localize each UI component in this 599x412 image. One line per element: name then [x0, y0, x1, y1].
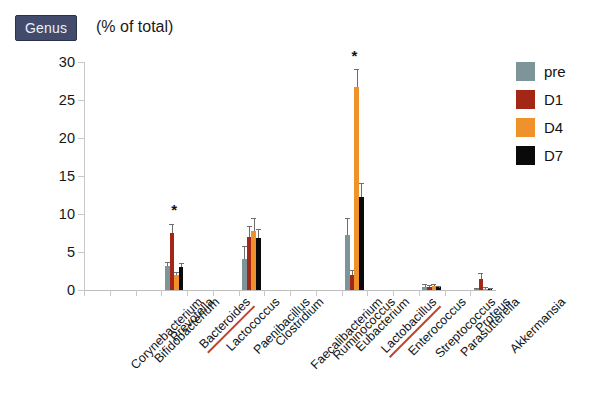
- bar-group: [345, 62, 363, 290]
- bar: [488, 289, 493, 290]
- y-axis-tick-label: 20: [59, 130, 75, 146]
- error-bar-cap: [247, 226, 252, 227]
- bar: [359, 197, 364, 290]
- error-bar-cap: [354, 69, 359, 70]
- genus-badge-label: Genus: [25, 20, 67, 36]
- error-bar: [347, 219, 348, 234]
- chart-figure: Genus (% of total) 051015202530 ** Coryn…: [0, 0, 599, 412]
- error-bar-cap: [478, 273, 483, 274]
- bar-group: [216, 62, 234, 290]
- error-bar-cap: [359, 183, 364, 184]
- bar-group: [474, 62, 492, 290]
- x-axis-labels: CorynebacteriumBifidobacteriumPrevotella…: [84, 292, 496, 410]
- error-bar: [434, 285, 435, 286]
- y-axis-tick-label: 0: [67, 282, 75, 298]
- error-bar-cap: [488, 288, 493, 289]
- bar-group: [397, 62, 415, 290]
- error-bar: [361, 184, 362, 198]
- y-axis-tick: [78, 176, 84, 177]
- bar-group: [191, 62, 209, 290]
- bar-group: [422, 62, 440, 290]
- bar-group: [268, 62, 286, 290]
- bar-group: [139, 62, 157, 290]
- error-bar: [167, 263, 168, 267]
- legend-swatch: [516, 118, 535, 137]
- y-axis-tick-label: 25: [59, 92, 75, 108]
- bar-group: [88, 62, 106, 290]
- y-axis-tick: [78, 62, 84, 63]
- legend-label: D1: [544, 91, 563, 108]
- bar-group: [294, 62, 312, 290]
- legend-swatch: [516, 62, 535, 81]
- error-bar: [258, 230, 259, 238]
- plot-area: 051015202530 **: [84, 62, 496, 290]
- legend-swatch: [516, 90, 535, 109]
- error-bar-cap: [251, 218, 256, 219]
- y-axis-tick: [78, 252, 84, 253]
- error-bar: [254, 219, 255, 231]
- y-axis-tick: [78, 138, 84, 139]
- error-bar-cap: [256, 229, 261, 230]
- legend-swatch: [516, 146, 535, 165]
- legend-item: D4: [516, 118, 596, 137]
- error-bar: [176, 273, 177, 275]
- bar: [179, 267, 184, 290]
- error-bar: [172, 225, 173, 233]
- bar-group: [165, 62, 183, 290]
- chart-legend: preD1D4D7: [516, 62, 596, 174]
- bar-group: [113, 62, 131, 290]
- error-bar: [357, 70, 358, 87]
- legend-label: D7: [544, 147, 563, 164]
- significance-asterisk: *: [171, 202, 177, 217]
- error-bar: [425, 285, 426, 286]
- error-bar: [439, 287, 440, 288]
- error-bar-cap: [179, 263, 184, 264]
- bar-group: [371, 62, 389, 290]
- legend-label: D4: [544, 119, 563, 136]
- error-bar: [429, 286, 430, 287]
- significance-asterisk: *: [351, 48, 357, 63]
- error-bar: [352, 271, 353, 275]
- bar-group: [319, 62, 337, 290]
- legend-item: D1: [516, 90, 596, 109]
- legend-item: D7: [516, 146, 596, 165]
- y-axis-tick-label: 10: [59, 206, 75, 222]
- error-bar: [244, 247, 245, 259]
- y-axis-tick-label: 15: [59, 168, 75, 184]
- error-bar-cap: [169, 224, 174, 225]
- error-bar: [485, 288, 486, 289]
- error-bar-cap: [345, 218, 350, 219]
- y-axis-tick: [78, 214, 84, 215]
- y-axis-tick: [78, 100, 84, 101]
- legend-label: pre: [544, 63, 566, 80]
- bar: [256, 238, 261, 290]
- error-bar: [249, 227, 250, 237]
- y-axis-tick-label: 5: [67, 244, 75, 260]
- error-bar-cap: [436, 286, 441, 287]
- bar-group: [242, 62, 260, 290]
- genus-badge: Genus: [15, 15, 77, 41]
- error-bar: [181, 264, 182, 267]
- legend-item: pre: [516, 62, 596, 81]
- bar-group: [448, 62, 466, 290]
- y-axis-tick-label: 30: [59, 54, 75, 70]
- error-bar: [481, 274, 482, 279]
- bar: [436, 287, 441, 290]
- chart-title: (% of total): [96, 18, 173, 36]
- y-axis-line: [84, 62, 85, 290]
